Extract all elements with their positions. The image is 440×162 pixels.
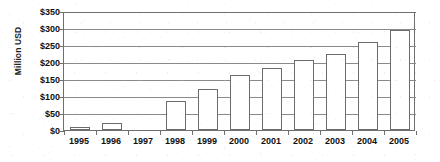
x-axis-tickmark xyxy=(416,131,417,135)
bar-slot xyxy=(70,11,89,130)
x-axis-tick-label: 2004 xyxy=(351,136,383,146)
x-axis-tickmark xyxy=(320,131,321,135)
bar-slot xyxy=(166,11,185,130)
plot-area xyxy=(63,12,415,131)
bar xyxy=(358,42,377,130)
y-axis-title: Million USD xyxy=(13,5,23,97)
bar-chart: Million USD $0$50$100$150$200$250$300$35… xyxy=(0,0,440,162)
x-axis-tick-label: 2003 xyxy=(319,136,351,146)
x-axis-tickmark xyxy=(96,131,97,135)
x-axis-tickmark xyxy=(192,131,193,135)
bar xyxy=(70,127,89,130)
bar-slot xyxy=(326,11,345,130)
x-axis-tick-label: 2005 xyxy=(383,136,415,146)
x-axis-tickmark xyxy=(384,131,385,135)
bar-slot xyxy=(262,11,281,130)
x-axis-tickmark xyxy=(128,131,129,135)
bar xyxy=(102,123,121,130)
bar-slot xyxy=(198,11,217,130)
x-axis-tickmark xyxy=(256,131,257,135)
bar-slot xyxy=(134,11,153,130)
bar-slot xyxy=(358,11,377,130)
x-axis-tick-labels: 1995199619971998199920002001200220032004… xyxy=(63,136,415,150)
y-axis-tick-label: $350 xyxy=(24,8,60,17)
x-axis-tick-label: 1999 xyxy=(191,136,223,146)
bar-slot xyxy=(294,11,313,130)
y-axis-tick-labels: $0$50$100$150$200$250$300$350 xyxy=(24,0,60,162)
x-axis-tick-label: 1998 xyxy=(159,136,191,146)
bar xyxy=(198,89,217,130)
bar xyxy=(390,30,409,130)
bar xyxy=(166,101,185,130)
bar-slot xyxy=(390,11,409,130)
x-axis-tick-label: 1995 xyxy=(63,136,95,146)
y-axis-tick-label: $300 xyxy=(24,25,60,34)
x-axis-tick-label: 2002 xyxy=(287,136,319,146)
x-axis-tick-label: 2001 xyxy=(255,136,287,146)
bar-series xyxy=(64,11,416,130)
bar xyxy=(262,68,281,130)
y-axis-tick-label: $0 xyxy=(24,127,60,136)
bar-slot xyxy=(230,11,249,130)
x-axis-tickmark xyxy=(64,131,65,135)
x-axis-tick-label: 1996 xyxy=(95,136,127,146)
x-axis-tickmark xyxy=(288,131,289,135)
x-axis-tick-label: 2000 xyxy=(223,136,255,146)
x-axis-tickmark xyxy=(224,131,225,135)
bar xyxy=(230,75,249,130)
bar xyxy=(294,60,313,130)
y-axis-tick-label: $100 xyxy=(24,93,60,102)
x-axis-tick-label: 1997 xyxy=(127,136,159,146)
x-axis-tickmark xyxy=(352,131,353,135)
y-axis-tick-label: $250 xyxy=(24,42,60,51)
bar-slot xyxy=(102,11,121,130)
y-axis-tick-label: $200 xyxy=(24,59,60,68)
x-axis-tickmark xyxy=(160,131,161,135)
y-axis-tick-label: $150 xyxy=(24,76,60,85)
bar xyxy=(326,54,345,130)
y-axis-tick-label: $50 xyxy=(24,110,60,119)
